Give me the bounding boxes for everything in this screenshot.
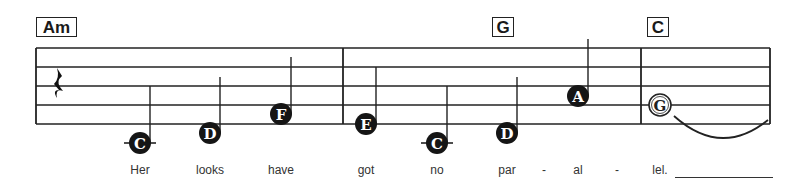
svg-text:C: C xyxy=(431,135,443,153)
lyric-syllable: Her xyxy=(130,163,149,177)
svg-text:D: D xyxy=(203,125,216,143)
lyric-syllable: no xyxy=(430,163,443,177)
note-d: D xyxy=(199,77,221,144)
lyric-extender-line xyxy=(675,177,773,178)
lyric-syllable: got xyxy=(358,163,375,177)
lyric-syllable: looks xyxy=(196,163,224,177)
tie-curve xyxy=(674,116,768,138)
svg-text:A: A xyxy=(571,88,584,106)
svg-text:G: G xyxy=(654,97,667,115)
lyric-syllable: have xyxy=(268,163,294,177)
note-d: D xyxy=(496,77,518,144)
svg-text:F: F xyxy=(276,106,287,124)
lyric-hyphen: - xyxy=(542,163,546,177)
svg-text:E: E xyxy=(360,116,371,134)
music-staff: CDFECDAG xyxy=(0,0,812,187)
svg-text:D: D xyxy=(500,125,513,143)
svg-text:C: C xyxy=(134,135,146,153)
note-a: A xyxy=(567,39,589,107)
quarter-rest-icon xyxy=(54,68,63,98)
lyric-hyphen: - xyxy=(615,163,619,177)
lyric-syllable: lel. xyxy=(652,163,667,177)
lyric-syllable: par xyxy=(498,163,515,177)
note-g: G xyxy=(649,94,671,116)
note-c: C xyxy=(124,86,156,154)
note-e: E xyxy=(355,67,377,135)
notes: CDFECDAG xyxy=(124,39,671,154)
lyric-syllable: al xyxy=(573,163,582,177)
note-c: C xyxy=(421,86,453,154)
